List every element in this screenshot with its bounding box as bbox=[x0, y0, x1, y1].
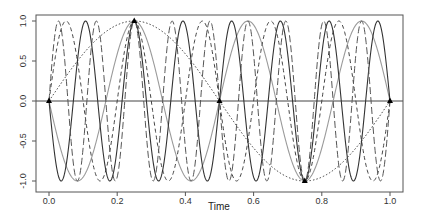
y-tick-label: 0.5 bbox=[18, 55, 28, 68]
y-tick-label: -0.5 bbox=[18, 133, 28, 149]
x-axis-label: Time bbox=[208, 201, 230, 212]
x-tick-label: 0.4 bbox=[179, 196, 192, 206]
y-tick-label: 1.0 bbox=[18, 15, 28, 28]
sample-point-marker bbox=[131, 18, 137, 24]
x-tick-label: 1.0 bbox=[384, 196, 397, 206]
y-axis: -1.0-0.50.00.51.0 bbox=[18, 15, 36, 189]
x-tick-label: 0.2 bbox=[111, 196, 124, 206]
y-tick-label: -1.0 bbox=[18, 173, 28, 189]
plot-area bbox=[36, 18, 403, 184]
y-tick-label: 0.0 bbox=[18, 95, 28, 108]
x-tick-label: 0.8 bbox=[316, 196, 329, 206]
sample-point-marker bbox=[46, 98, 52, 104]
sample-point-marker bbox=[387, 98, 393, 104]
x-tick-label: 0.0 bbox=[43, 196, 56, 206]
aliasing-chart: 0.00.20.40.60.81.0 -1.0-0.50.00.51.0 Tim… bbox=[0, 0, 424, 218]
x-tick-label: 0.6 bbox=[247, 196, 260, 206]
